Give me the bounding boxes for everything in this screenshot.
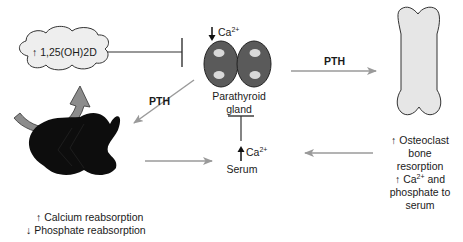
up-arrow-icon: ↑ <box>32 46 37 58</box>
up-arrow-icon: ↑ <box>395 173 400 185</box>
up-arrow-icon: ↑ <box>391 134 396 146</box>
serum-label: Serum <box>226 163 258 176</box>
serum-inhibits-parathyroid-edge <box>228 116 254 141</box>
parathyroid-gland-icon <box>204 41 271 87</box>
decreased-calcium-arrow-icon <box>209 27 216 41</box>
vitamin-d-label: ↑ 1,25(OH)2D <box>32 46 97 59</box>
kidney-effects-label: ↑ Calcium reabsorption ↓ Phosphate reabs… <box>26 211 156 237</box>
down-arrow-icon: ↓ <box>26 224 31 236</box>
up-arrow-icon: ↑ <box>36 211 41 223</box>
vitd-inhibits-parathyroid-edge <box>107 38 182 67</box>
parathyroid-gland-label: Parathyroid gland <box>207 90 271 116</box>
kidney-icon <box>29 113 120 175</box>
pth-to-kidney-label: PTH <box>149 95 170 108</box>
bone-effects-label: ↑ Osteoclast bone resorption ↑ Ca2+ and … <box>381 134 459 212</box>
increased-calcium-arrow-icon <box>238 146 245 161</box>
bone-icon <box>397 7 441 115</box>
gland-stimulus-label: Ca2+ <box>218 26 239 39</box>
pth-to-bone-label: PTH <box>324 55 345 68</box>
serum-calcium-label: Ca2+ <box>246 146 267 159</box>
